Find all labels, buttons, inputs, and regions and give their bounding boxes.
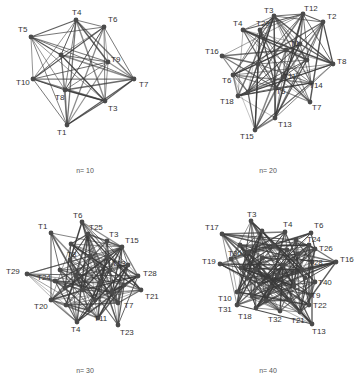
graph-node-t15: [120, 245, 125, 250]
graph-edge: [61, 55, 108, 62]
graph-node-t3: [249, 219, 254, 224]
graph-node-t2: [321, 20, 326, 25]
node-label: T12: [304, 4, 318, 13]
graph-node-t17: [246, 90, 251, 95]
node-label: T20: [256, 19, 270, 28]
graph-edge: [67, 101, 105, 125]
caption-n40: n= 40: [238, 367, 298, 374]
network-graphs-canvas: T4T6T5T9T7T10T8T3T1T3T12T2T4T20T16T8T6T1…: [0, 0, 360, 384]
graph-node-t10: [31, 77, 36, 82]
graph-edge: [31, 37, 67, 125]
graph-node-t27: [254, 268, 259, 273]
graph-node-t23: [288, 298, 293, 303]
node-label: T4: [72, 8, 82, 17]
node-label: T15: [125, 236, 139, 245]
graph-panel-n10: T4T6T5T9T7T10T8T3T1: [16, 8, 149, 137]
node-label: T40: [318, 278, 332, 287]
caption-n20: n= 20: [238, 167, 298, 174]
graph-node-t5: [294, 238, 299, 243]
graph-node-t10: [256, 62, 261, 67]
node-label: T11: [283, 72, 297, 81]
graph-edge: [31, 37, 65, 90]
node-label: T18: [220, 97, 234, 106]
node-label: T5: [18, 25, 28, 34]
node-label: T2: [327, 12, 337, 21]
graph-node-t7: [116, 301, 121, 306]
node-label: T4: [71, 325, 81, 334]
graph-node-t16: [58, 268, 63, 273]
graph-node-t1: [65, 123, 70, 128]
node-label: T1: [57, 128, 67, 137]
graph-node-t31: [235, 303, 240, 308]
graph-node-t13: [273, 116, 278, 121]
graph-panel-n20: T3T12T2T4T20T16T8T6T18T14T7T13T15T1T11T5: [205, 4, 347, 141]
graph-node-t16: [220, 54, 225, 59]
node-label: T21: [145, 292, 159, 301]
graph-panel-n40: T3T17T4T6T26T24T19T30T16T40T10T31T18T22T…: [202, 210, 354, 336]
graph-node-t9: [305, 58, 310, 63]
graph-node-t8: [281, 263, 286, 268]
graph-node-t26: [86, 308, 91, 313]
node-label: T18: [238, 312, 252, 321]
node-label: T15: [240, 132, 254, 141]
node-label: T7: [124, 301, 134, 310]
graph-node-t30: [63, 286, 68, 291]
graph-node-t12: [268, 285, 273, 290]
node-label: T10: [218, 294, 232, 303]
graph-node-t14: [292, 284, 297, 289]
graph-node-t29: [25, 272, 30, 277]
graph-node-t10: [81, 288, 86, 293]
graph-figure: T4T6T5T9T7T10T8T3T1T3T12T2T4T20T16T8T6T1…: [0, 0, 360, 384]
node-label: T3: [247, 210, 257, 219]
node-label: T6: [108, 15, 118, 24]
graph-node-t6: [80, 220, 85, 225]
node-label: T11: [94, 314, 108, 323]
graph-node-t28: [136, 274, 141, 279]
graph-edge: [65, 79, 134, 90]
graph-node-t14: [122, 283, 127, 288]
graph-node-t17: [93, 298, 98, 303]
graph-node-t33: [239, 266, 244, 271]
graph-node-t19: [284, 48, 289, 53]
graph-node-t1: [49, 231, 54, 236]
graph-node-t1: [260, 229, 265, 234]
graph-node-t26: [313, 247, 318, 252]
graph-node-t22: [126, 263, 131, 268]
graph-node-t15: [300, 268, 305, 273]
node-label: T1: [38, 222, 48, 231]
node-label: T28: [143, 269, 157, 278]
graph-edge: [31, 20, 76, 37]
graph-node-t38: [303, 276, 308, 281]
graph-node-t17: [220, 232, 225, 237]
node-label: T8: [55, 93, 65, 102]
node-label: T32: [268, 315, 282, 324]
node-label: T1: [290, 39, 300, 48]
graph-node-t6: [102, 25, 107, 30]
graph-node-t3: [103, 99, 108, 104]
graph-node-t22: [307, 303, 312, 308]
node-label: T28: [309, 258, 323, 267]
graph-node-t5: [88, 254, 93, 259]
graph-node-t2: [59, 53, 64, 58]
graph-node-t29: [275, 273, 280, 278]
graph-edge: [255, 64, 258, 130]
graph-edge: [33, 79, 67, 125]
graph-node-t23: [116, 323, 121, 328]
node-label: T20: [34, 302, 48, 311]
node-label: T23: [120, 328, 134, 337]
node-label: T9: [111, 55, 121, 64]
graph-node-t2: [69, 242, 74, 247]
node-label: T13: [112, 259, 126, 268]
node-label: T29: [6, 267, 20, 276]
graph-node-t20: [258, 28, 263, 33]
graph-node-t21: [298, 310, 303, 315]
graph-node-t25: [86, 232, 91, 237]
graph-node-t27: [110, 290, 115, 295]
node-label: T17: [205, 223, 219, 232]
node-label: T22: [313, 301, 327, 310]
graph-node-t18: [254, 306, 259, 311]
graph-node-t3: [105, 239, 110, 244]
graph-node-t37: [246, 250, 251, 255]
graph-node-t25: [272, 244, 277, 249]
graph-node-t7: [132, 77, 137, 82]
